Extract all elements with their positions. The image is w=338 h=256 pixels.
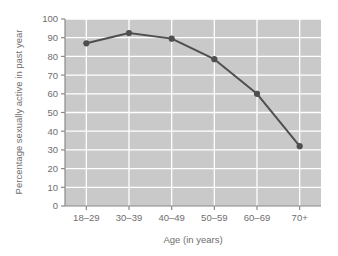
data-point-70+ <box>297 143 303 149</box>
y-tick-label-20: 20 <box>47 163 58 174</box>
y-tick-label-40: 40 <box>47 126 58 137</box>
x-tick-label-5: 70+ <box>292 212 309 223</box>
x-axis-title: Age (in years) <box>163 234 222 245</box>
y-tick-label-90: 90 <box>47 32 58 43</box>
y-tick-label-100: 100 <box>42 13 58 24</box>
data-point-30–39 <box>126 30 132 36</box>
x-tick-label-4: 60–69 <box>244 212 270 223</box>
data-point-50–59 <box>211 56 217 62</box>
chart-figure: 0102030405060708090100 18–2930–3940–4950… <box>0 0 338 256</box>
x-tick-label-3: 50–59 <box>201 212 227 223</box>
y-tick-label-80: 80 <box>47 51 58 62</box>
y-axis-title: Percentage sexually active in past year <box>13 30 24 195</box>
x-tick-label-1: 30–39 <box>116 212 142 223</box>
y-tick-label-60: 60 <box>47 88 58 99</box>
data-point-60–69 <box>254 91 260 97</box>
y-tick-label-0: 0 <box>53 200 58 211</box>
x-tick-label-2: 40–49 <box>158 212 184 223</box>
y-tick-label-30: 30 <box>47 144 58 155</box>
y-tick-label-70: 70 <box>47 70 58 81</box>
y-tick-label-50: 50 <box>47 107 58 118</box>
data-point-18–29 <box>83 40 89 46</box>
line-chart-svg: 0102030405060708090100 18–2930–3940–4950… <box>0 0 338 256</box>
x-tick-label-0: 18–29 <box>73 212 99 223</box>
data-point-40–49 <box>169 36 175 42</box>
y-tick-label-10: 10 <box>47 182 58 193</box>
